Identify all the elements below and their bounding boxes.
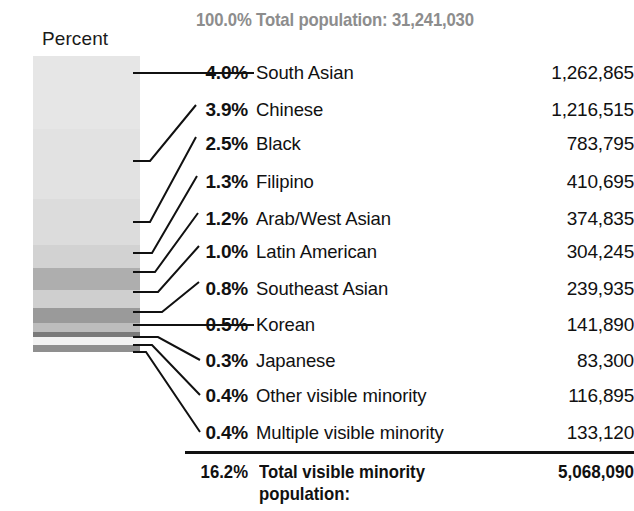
row-label: Chinese (256, 99, 323, 121)
row-label: Black (256, 133, 301, 155)
bar-segment (33, 199, 140, 245)
row-label: Other visible minority (256, 385, 427, 407)
row-percent: 2.5% (186, 133, 248, 155)
total-value: 5,068,090 (490, 461, 634, 483)
total-percent: 16.2% (193, 461, 248, 483)
row-label: Latin American (256, 241, 377, 263)
bar-segment (33, 308, 140, 323)
table-row: 0.4% Other visible minority 116,895 (186, 385, 634, 409)
row-label: Japanese (256, 350, 335, 372)
stacked-bar-chart (33, 56, 140, 352)
row-value: 133,120 (474, 422, 634, 444)
row-value: 374,835 (474, 208, 634, 230)
row-value: 304,245 (474, 241, 634, 263)
row-percent: 1.2% (186, 208, 248, 230)
bar-segment (33, 345, 140, 353)
row-percent: 3.9% (186, 99, 248, 121)
table-row: 0.4% Multiple visible minority 133,120 (186, 422, 634, 446)
bar-segment (33, 245, 140, 269)
table-row: 4.0% South Asian 1,262,865 (186, 62, 634, 86)
bar-segment (33, 268, 140, 290)
table-row: 1.0% Latin American 304,245 (186, 241, 634, 265)
percent-axis-label: Percent (42, 28, 108, 50)
row-label: Arab/West Asian (256, 208, 391, 230)
row-value: 410,695 (474, 171, 634, 193)
row-label: South Asian (256, 62, 354, 84)
bar-segment (33, 290, 140, 309)
row-label: Korean (256, 314, 315, 336)
table-row: 3.9% Chinese 1,216,515 (186, 99, 634, 123)
row-percent: 4.0% (186, 62, 248, 84)
table-row: 0.8% Southeast Asian 239,935 (186, 278, 634, 302)
bar-segment (33, 56, 140, 129)
row-percent: 0.3% (186, 350, 248, 372)
row-label: Southeast Asian (256, 278, 388, 300)
table-row: 0.3% Japanese 83,300 (186, 350, 634, 374)
table-row: 0.5% Korean 141,890 (186, 314, 634, 338)
table-row: 2.5% Black 783,795 (186, 133, 634, 157)
table-row: 1.2% Arab/West Asian 374,835 (186, 208, 634, 232)
table-row: 1.3% Filipino 410,695 (186, 171, 634, 195)
row-value: 1,262,865 (474, 62, 634, 84)
row-value: 141,890 (474, 314, 634, 336)
row-label: Multiple visible minority (256, 422, 444, 444)
total-label: Total visible minority population: (259, 461, 461, 505)
row-percent: 0.5% (186, 314, 248, 336)
row-value: 1,216,515 (474, 99, 634, 121)
bar-segment (33, 129, 140, 200)
row-value: 116,895 (474, 385, 634, 407)
row-label: Filipino (256, 171, 314, 193)
row-percent: 0.4% (186, 385, 248, 407)
row-value: 83,300 (474, 350, 634, 372)
row-percent: 0.8% (186, 278, 248, 300)
row-percent: 0.4% (186, 422, 248, 444)
row-value: 783,795 (474, 133, 634, 155)
total-row: 16.2% Total visible minority population:… (186, 461, 634, 507)
row-percent: 1.3% (186, 171, 248, 193)
chart-title: 100.0% Total population: 31,241,030 (196, 9, 566, 31)
row-value: 239,935 (474, 278, 634, 300)
row-percent: 1.0% (186, 241, 248, 263)
total-divider-rule (185, 451, 634, 454)
